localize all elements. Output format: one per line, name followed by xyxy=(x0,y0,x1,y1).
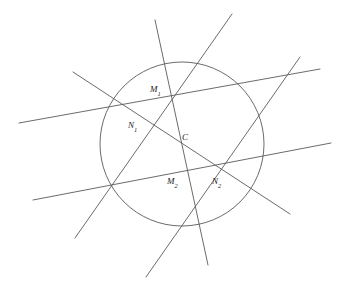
secant-lower-left-diagonal xyxy=(75,14,232,238)
label-C: C xyxy=(182,132,189,142)
label-C-base: C xyxy=(182,132,189,142)
secant-lines-group xyxy=(19,14,331,277)
label-N1: N1 xyxy=(127,120,137,133)
label-M1-subscript: 1 xyxy=(158,90,161,97)
secant-steep-right xyxy=(146,57,300,277)
label-N2: N2 xyxy=(211,176,222,189)
label-N2-subscript: 2 xyxy=(218,182,222,189)
label-M2: M2 xyxy=(166,176,179,189)
secant-lower-horizontal xyxy=(33,143,331,200)
label-M1: M1 xyxy=(149,84,161,97)
label-M2-subscript: 2 xyxy=(175,182,179,189)
secant-upper-horizontal xyxy=(19,69,320,123)
point-labels-group: M1N1CM2N2 xyxy=(127,84,222,189)
geometry-canvas: M1N1CM2N2 xyxy=(0,0,347,293)
label-N1-subscript: 1 xyxy=(134,126,137,133)
secant-steep-left xyxy=(155,20,208,265)
geometry-figure: M1N1CM2N2 xyxy=(0,0,347,293)
